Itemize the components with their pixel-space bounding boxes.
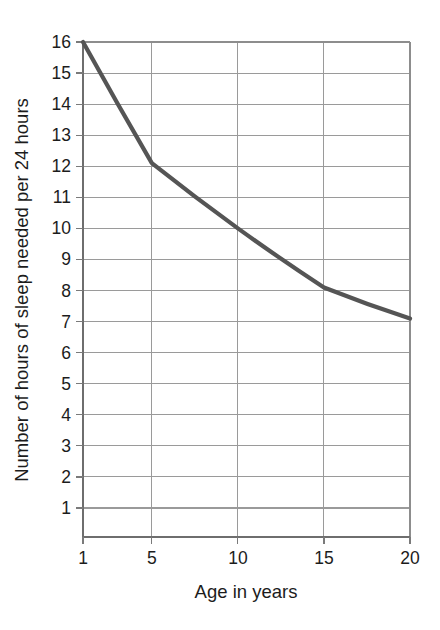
y-tick-label: 2	[61, 467, 71, 487]
y-axis-tick-labels: 12345678910111213141516	[52, 32, 72, 518]
y-tick-label: 13	[52, 125, 71, 145]
x-axis-tick-labels: 15101520	[78, 548, 420, 568]
y-tick-label: 12	[52, 156, 71, 176]
y-tick-label: 1	[61, 498, 71, 518]
y-tick-label: 14	[52, 94, 72, 114]
chart-canvas: 12345678910111213141516 15101520 Number …	[0, 0, 440, 630]
y-axis-title: Number of hours of sleep needed per 24 h…	[11, 98, 32, 482]
y-tick-label: 10	[52, 218, 72, 238]
y-tick-label: 6	[61, 343, 71, 363]
x-tick-label: 20	[400, 548, 420, 568]
horizontal-gridlines	[83, 42, 410, 508]
sleep-hours-series-line	[83, 42, 410, 318]
y-tick-label: 4	[61, 405, 71, 425]
vertical-gridlines	[83, 42, 410, 537]
sleep-hours-line-chart: 12345678910111213141516 15101520 Number …	[0, 0, 440, 630]
y-tick-label: 7	[61, 312, 71, 332]
x-axis-title: Age in years	[195, 581, 298, 602]
x-tick-label: 15	[314, 548, 333, 568]
x-tick-label: 10	[228, 548, 248, 568]
x-tick-label: 5	[147, 548, 157, 568]
y-tick-label: 16	[52, 32, 71, 52]
y-tick-label: 9	[61, 249, 71, 269]
y-tick-label: 8	[61, 281, 71, 301]
y-tick-label: 15	[52, 63, 71, 83]
y-tick-label: 3	[61, 436, 71, 456]
y-tick-label: 5	[61, 374, 71, 394]
y-tick-label: 11	[53, 187, 71, 207]
x-tick-label: 1	[78, 548, 88, 568]
